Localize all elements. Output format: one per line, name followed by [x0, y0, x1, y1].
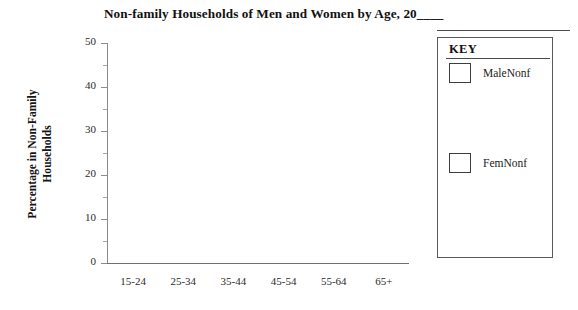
y-axis-title-line-2: Households: [40, 43, 55, 264]
chart-container: Non-family Households of Men and Women b…: [0, 0, 578, 310]
legend-title-rule: [446, 58, 550, 59]
y-tick-minor: [103, 109, 107, 110]
chart-title: Non-family Households of Men and Women b…: [104, 6, 524, 22]
y-tick-minor: [103, 65, 107, 66]
legend-entry[interactable]: MaleNonf: [449, 62, 530, 84]
legend-label: FemNonf: [483, 157, 527, 169]
y-tick-minor: [103, 241, 107, 242]
plot-area: [108, 43, 409, 263]
legend-label: MaleNonf: [483, 67, 530, 79]
legend-title: KEY: [449, 42, 477, 57]
y-tick-label: 20: [68, 167, 96, 179]
legend-swatch: [449, 153, 471, 173]
legend-top-rule: [437, 30, 570, 31]
x-tick-label: 65+: [354, 275, 414, 287]
y-tick-label: 0: [68, 255, 96, 267]
y-tick-major: [101, 219, 107, 220]
y-axis-title-line-1: Percentage in Non-Family: [26, 89, 39, 218]
y-tick-major: [101, 87, 107, 88]
y-tick-major: [101, 175, 107, 176]
y-axis-title: Percentage in Non-Family Households: [14, 43, 66, 264]
x-axis-line: [107, 263, 409, 264]
y-tick-major: [101, 131, 107, 132]
y-tick-label: 40: [68, 79, 96, 91]
legend-swatch: [449, 63, 471, 83]
y-tick-major: [101, 263, 107, 264]
y-tick-major: [101, 43, 107, 44]
y-tick-label: 10: [68, 211, 96, 223]
y-tick-minor: [103, 153, 107, 154]
y-tick-minor: [103, 197, 107, 198]
legend-entry[interactable]: FemNonf: [449, 152, 527, 174]
y-tick-label: 50: [68, 35, 96, 47]
y-tick-label: 30: [68, 123, 96, 135]
